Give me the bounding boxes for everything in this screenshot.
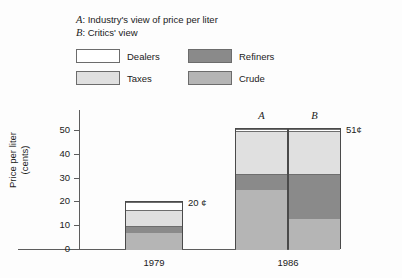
bar-segment-taxes: [289, 131, 340, 174]
y-tick-label: 40: [48, 148, 70, 159]
bar-total-label: 51¢: [346, 124, 362, 135]
y-axis-title: Price per liter (cents): [7, 108, 31, 212]
y-tick-mark: [74, 178, 80, 179]
bar-segment-crude: [236, 190, 287, 250]
bar-sub-label-a: A: [247, 110, 277, 121]
bar-sub-label-b: B: [300, 110, 330, 121]
y-axis-line: [79, 110, 80, 250]
stacked-bar-chart-figure: A: Industry's view of price per liter B:…: [0, 0, 402, 278]
stacked-bar: [235, 128, 288, 249]
y-tick-label: 0: [48, 243, 70, 254]
bar-segment-taxes: [236, 131, 287, 174]
y-tick-label: 20: [48, 195, 70, 206]
stacked-bar: [125, 201, 183, 249]
bar-segment-dealers: [289, 129, 340, 131]
bar-segment-dealers: [236, 129, 287, 131]
y-tick-mark: [74, 130, 80, 131]
bar-segment-crude: [289, 219, 340, 250]
bar-segment-refiners: [126, 226, 182, 233]
bar-segment-taxes: [126, 210, 182, 227]
x-category-label: 1986: [258, 257, 318, 268]
stacked-bar: [288, 128, 341, 249]
y-tick-mark: [74, 225, 80, 226]
y-tick-mark: [74, 201, 80, 202]
y-axis-title-line1: Price per liter: [7, 108, 19, 212]
bar-segment-refiners: [236, 174, 287, 191]
y-tick-label: 50: [48, 124, 70, 135]
bar-segment-dealers: [126, 202, 182, 209]
bar-segment-crude: [126, 233, 182, 250]
bar-segment-refiners: [289, 174, 340, 219]
x-category-label: 1979: [124, 257, 184, 268]
y-tick-label: 10: [48, 219, 70, 230]
y-axis-title-line2: (cents): [19, 108, 31, 212]
y-tick-mark: [74, 249, 80, 250]
y-tick-mark: [74, 154, 80, 155]
bar-total-label: 20 ¢: [188, 197, 207, 208]
y-tick-label: 30: [48, 172, 70, 183]
plot-area: Price per liter (cents) 01020304050 20 ¢…: [0, 0, 402, 278]
